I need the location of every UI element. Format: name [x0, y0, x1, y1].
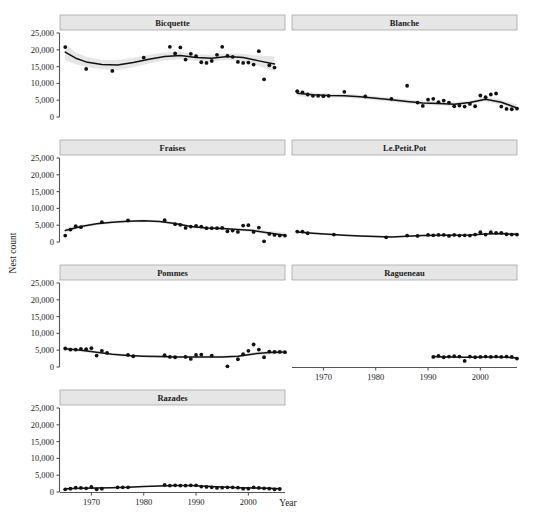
data-point: [178, 484, 182, 488]
data-point: [437, 354, 441, 358]
data-point: [316, 94, 320, 98]
data-point: [494, 92, 498, 96]
data-point: [194, 224, 198, 228]
data-point: [63, 347, 67, 351]
data-point: [327, 94, 331, 98]
data-point: [210, 226, 214, 230]
data-point: [95, 487, 99, 491]
data-point: [463, 359, 467, 363]
y-tick-label: 15,000: [31, 187, 54, 197]
data-point: [494, 355, 498, 359]
y-tick-label: 5,000: [35, 220, 54, 230]
data-point: [79, 486, 83, 490]
x-tick-label: 2000: [472, 372, 489, 382]
data-point: [241, 487, 245, 491]
data-point: [173, 222, 177, 226]
data-point: [236, 357, 240, 361]
data-point: [184, 58, 188, 62]
data-point: [74, 486, 78, 490]
x-tick-label: 1970: [315, 372, 332, 382]
data-point: [110, 69, 114, 73]
y-tick-label: 20,000: [31, 420, 54, 430]
data-point: [510, 233, 514, 237]
x-tick-label: 1970: [83, 497, 100, 507]
data-point: [499, 231, 503, 235]
y-tick-label: 10,000: [31, 328, 54, 338]
data-point: [226, 485, 230, 489]
nest-count-facet-plot: BicquetteBlancheFraisesLe.Petit.PotPomme…: [0, 0, 536, 517]
data-point: [515, 107, 519, 111]
y-tick-label: 10,000: [31, 203, 54, 213]
data-point: [505, 355, 509, 359]
data-point: [163, 353, 167, 357]
y-tick-label: 15,000: [31, 62, 54, 72]
data-point: [452, 104, 456, 108]
data-point: [463, 105, 467, 109]
data-point: [416, 234, 420, 238]
data-point: [69, 228, 73, 232]
data-point: [199, 485, 203, 489]
data-point: [478, 355, 482, 359]
data-point: [226, 54, 230, 58]
data-point: [100, 487, 104, 491]
facet-panel-ragueneau: Ragueneau: [292, 265, 519, 367]
data-point: [405, 234, 409, 238]
data-point: [252, 343, 256, 347]
data-point: [458, 104, 462, 108]
facet-panel-razades: Razades: [60, 390, 285, 492]
data-point: [437, 233, 441, 237]
data-point: [189, 225, 193, 229]
data-point: [473, 233, 477, 237]
data-point: [484, 355, 488, 359]
x-tick-label: 2000: [240, 497, 257, 507]
x-axis-right-column: 1970198019902000: [292, 368, 517, 382]
data-point: [295, 89, 299, 93]
data-point: [494, 231, 498, 235]
facet-panel-blanche: Blanche: [292, 15, 519, 117]
data-point: [267, 487, 271, 491]
data-point: [283, 350, 287, 354]
data-point: [473, 355, 477, 359]
data-point: [262, 486, 266, 490]
data-point: [215, 53, 219, 57]
data-point: [63, 45, 67, 49]
y-tick-label: 10,000: [31, 453, 54, 463]
data-point: [505, 232, 509, 236]
data-point: [241, 224, 245, 228]
data-point: [431, 233, 435, 237]
y-tick-label: 0: [50, 237, 54, 247]
data-point: [231, 229, 235, 233]
data-point: [332, 233, 336, 237]
x-tick-label: 1980: [367, 372, 384, 382]
data-point: [79, 347, 83, 351]
data-point: [220, 226, 224, 230]
data-point: [205, 226, 209, 230]
data-point: [431, 97, 435, 101]
data-point: [437, 100, 441, 104]
facet-panel-le-petit-pot: Le.Petit.Pot: [292, 140, 519, 242]
data-point: [178, 46, 182, 50]
data-point: [267, 350, 271, 354]
data-point: [499, 105, 503, 109]
data-point: [74, 348, 78, 352]
y-tick-label: 5,000: [35, 470, 54, 480]
y-tick-label: 25,000: [31, 28, 54, 38]
data-point: [90, 346, 94, 350]
data-point: [100, 349, 104, 353]
data-point: [205, 61, 209, 65]
data-point: [447, 234, 451, 238]
y-tick-label: 20,000: [31, 170, 54, 180]
data-point: [226, 364, 230, 368]
panel-background: [292, 158, 517, 242]
data-point: [178, 223, 182, 227]
data-point: [421, 104, 425, 108]
data-point: [278, 234, 282, 238]
data-point: [189, 357, 193, 361]
data-point: [306, 231, 310, 235]
panel-background: [292, 33, 517, 117]
data-point: [468, 234, 472, 238]
data-point: [199, 353, 203, 357]
data-point: [252, 63, 256, 67]
y-tick-label: 25,000: [31, 403, 54, 413]
data-point: [220, 45, 224, 49]
